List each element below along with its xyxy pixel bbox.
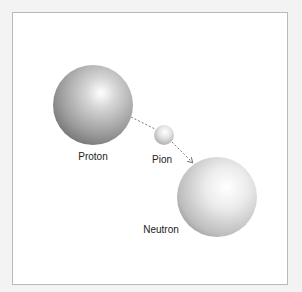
neutron-sphere-icon (177, 157, 257, 237)
particle-exchange-diagram (0, 0, 302, 292)
proton-sphere-icon (53, 65, 133, 145)
pion-sphere-icon (154, 125, 174, 145)
exchange-line-proton-pion (131, 117, 155, 129)
exchange-arrow-pion-neutron (172, 142, 192, 162)
neutron-label: Neutron (143, 224, 179, 236)
proton-label: Proton (78, 151, 107, 163)
pion-label: Pion (152, 154, 172, 166)
